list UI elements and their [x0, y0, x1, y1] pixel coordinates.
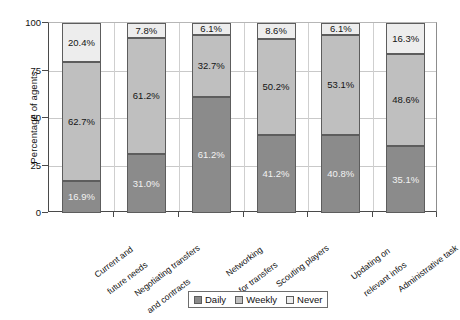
segment-label-weekly: 48.6%: [392, 95, 419, 105]
segment-label-weekly: 62.7%: [68, 117, 95, 127]
segment-label-daily: 40.8%: [327, 169, 354, 179]
gridline-50: [49, 118, 436, 119]
segment-label-never: 16.3%: [392, 34, 419, 44]
segment-label-weekly: 53.1%: [327, 80, 354, 90]
segment-label-weekly: 32.7%: [198, 61, 225, 71]
segment-label-never: 8.6%: [265, 26, 287, 36]
segment-never[interactable]: 16.3%: [386, 23, 425, 54]
y-tick-label-25: 25: [11, 159, 41, 170]
segment-label-never: 20.4%: [68, 38, 95, 48]
y-tick-label-0: 0: [11, 207, 41, 218]
y-tick-label-100: 100: [11, 17, 41, 28]
y-tick-label-75: 75: [11, 64, 41, 75]
legend-label-daily: Daily: [205, 294, 226, 305]
segment-label-daily: 61.2%: [198, 150, 225, 160]
legend-label-never: Never: [297, 294, 322, 305]
chart-legend: Daily Weekly Never: [188, 291, 328, 308]
x-axis-label-administrative-task: Administrative task: [436, 163, 460, 275]
legend-swatch-daily-icon: [194, 296, 202, 304]
segment-weekly[interactable]: 61.2%: [127, 38, 166, 154]
segment-label-never: 6.1%: [330, 24, 352, 34]
legend-label-weekly: Weekly: [246, 294, 277, 305]
gridline-75: [49, 71, 436, 72]
segment-weekly[interactable]: 53.1%: [321, 35, 360, 136]
vertical-gridline-1: [114, 23, 115, 211]
vertical-gridline-2: [179, 23, 180, 211]
segment-never[interactable]: 8.6%: [257, 23, 296, 39]
vertical-gridline-4: [308, 23, 309, 211]
legend-item-never[interactable]: Never: [286, 294, 322, 305]
segment-never[interactable]: 6.1%: [192, 23, 231, 35]
stacked-bar-chart: Percentage of agents 0 25 50 75 100 20.4…: [0, 0, 460, 320]
segment-label-daily: 16.9%: [68, 192, 95, 202]
legend-item-weekly[interactable]: Weekly: [235, 294, 277, 305]
y-tick-label-50: 50: [11, 112, 41, 123]
y-tick-mark-0: [42, 212, 48, 213]
segment-label-never: 6.1%: [200, 24, 222, 34]
segment-weekly[interactable]: 32.7%: [192, 35, 231, 97]
segment-weekly[interactable]: 48.6%: [386, 54, 425, 146]
segment-label-weekly: 61.2%: [133, 91, 160, 101]
bar-group-current-and-future-needs[interactable]: 20.4% 62.7% 16.9%: [62, 23, 101, 213]
legend-swatch-never-icon: [286, 296, 294, 304]
legend-swatch-weekly-icon: [235, 296, 243, 304]
legend-item-daily[interactable]: Daily: [194, 294, 226, 305]
segment-weekly[interactable]: 50.2%: [257, 39, 296, 134]
segment-label-never: 7.8%: [135, 26, 157, 36]
segment-weekly[interactable]: 62.7%: [62, 62, 101, 181]
segment-never[interactable]: 20.4%: [62, 23, 101, 62]
segment-daily[interactable]: 16.9%: [62, 181, 101, 213]
segment-never[interactable]: 7.8%: [127, 23, 166, 38]
segment-label-weekly: 50.2%: [263, 82, 290, 92]
segment-never[interactable]: 6.1%: [321, 23, 360, 35]
